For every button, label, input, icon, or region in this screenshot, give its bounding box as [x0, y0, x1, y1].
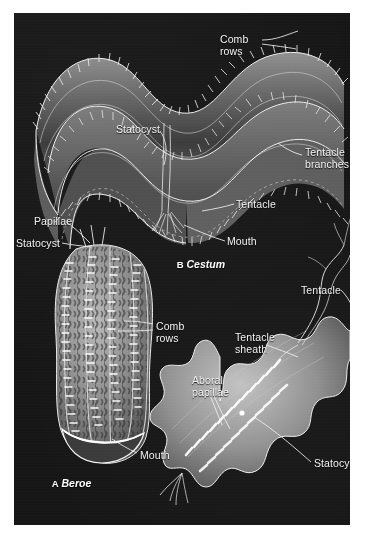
label-aboral-papillae: Aboral papillae	[192, 375, 229, 398]
caption-letter-a: A	[52, 478, 59, 489]
label-statocyst-coeloplana: Statocyst	[314, 458, 350, 470]
label-mouth-beroe: Mouth	[140, 450, 170, 462]
label-tentacle-sheath: Tentacle sheath	[235, 332, 275, 355]
label-papillae-beroe: Papillae	[34, 216, 72, 228]
cestum-body	[33, 44, 348, 249]
beroe-body	[55, 225, 152, 463]
label-mouth-cestum: Mouth	[227, 236, 257, 248]
caption-letter-b: B	[177, 259, 184, 270]
label-tentacle-coeloplana: Tentacle	[301, 285, 341, 297]
caption-genus-cestum: Cestum	[186, 258, 225, 270]
caption-genus-beroe: Beroe	[61, 477, 91, 489]
leader-statocyst-beroe	[62, 243, 92, 247]
leader-tentacle-coeloplana	[341, 290, 350, 307]
caption-panel-c: C Coeloplana	[267, 518, 345, 525]
caption-panel-b: B Cestum	[165, 246, 225, 282]
caption-panel-a: A Beroe	[40, 465, 91, 501]
label-comb-rows-cestum: Comb rows	[220, 34, 248, 57]
label-statocyst-beroe: Statocyst	[16, 238, 60, 250]
label-tentacle-branches: Tentacle branches	[305, 147, 349, 170]
figure-panel: Comb rows Statocyst Tentacle branches Te…	[14, 13, 350, 525]
label-comb-rows-beroe: Comb rows	[156, 321, 184, 344]
label-tentacle-cestum: Tentacle	[236, 199, 276, 211]
leader-comb-rows-cestum	[262, 31, 298, 40]
label-statocyst-cestum: Statocyst	[116, 124, 160, 136]
